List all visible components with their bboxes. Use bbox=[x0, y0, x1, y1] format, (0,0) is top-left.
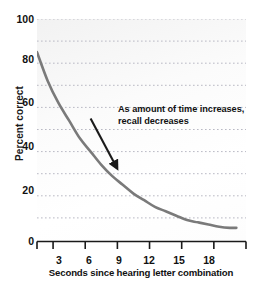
plot-area bbox=[37, 19, 246, 240]
annotation-line-2: recall decreases bbox=[118, 116, 252, 128]
x-axis-tick-labels: 3 6 9 12 15 18 bbox=[0, 254, 262, 268]
data-series-layer bbox=[37, 52, 236, 228]
y-tick-label-40: 40 bbox=[6, 141, 34, 151]
x-tick-label-12: 12 bbox=[139, 254, 159, 266]
y-tick-label-80: 80 bbox=[6, 54, 34, 64]
y-tick-label-60: 60 bbox=[6, 97, 34, 107]
plot-canvas bbox=[37, 19, 246, 240]
x-tick-label-18: 18 bbox=[199, 254, 219, 266]
x-axis-label: Seconds since hearing letter combination bbox=[28, 267, 254, 278]
x-tick-label-9: 9 bbox=[109, 254, 129, 266]
x-tick-label-3: 3 bbox=[49, 254, 69, 266]
y-tick-label-100: 100 bbox=[6, 14, 34, 24]
x-tick-label-15: 15 bbox=[169, 254, 189, 266]
line-series-recall-accuracy bbox=[37, 52, 236, 228]
y-tick-label-20: 20 bbox=[6, 185, 34, 195]
x-tick-label-6: 6 bbox=[79, 254, 99, 266]
chart-annotation: As amount of time increases, recall decr… bbox=[118, 104, 252, 127]
annotation-line-1: As amount of time increases, bbox=[118, 104, 252, 116]
chart-figure: Percent correct 100 80 60 40 20 0 bbox=[0, 0, 262, 282]
